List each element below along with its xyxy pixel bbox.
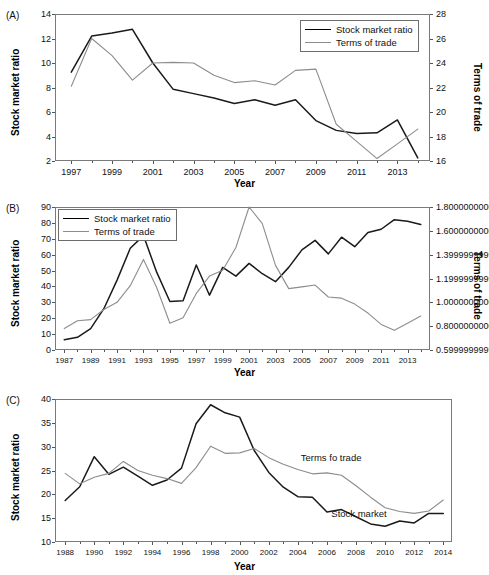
x-axis-tick-mark <box>385 542 386 545</box>
x-axis-tick-mark <box>414 542 415 545</box>
x-axis-minor-tick-mark <box>342 350 343 352</box>
x-axis-minor-tick-mark <box>312 542 313 544</box>
y-axis-tick-label: 70 <box>29 234 51 244</box>
y-axis-tick-label: 50 <box>29 266 51 276</box>
y2-axis-tick-label: 1.60000000000000009 <box>436 226 460 236</box>
x-axis-tick-label: 2001 <box>240 356 258 365</box>
x-axis-minor-tick-mark <box>173 161 174 163</box>
panel-a-x-axis-label: Year <box>0 178 489 189</box>
x-axis-tick-label: 1993 <box>135 356 153 365</box>
x-axis-tick-mark <box>234 161 235 164</box>
x-axis-minor-tick-mark <box>371 542 372 544</box>
x-axis-minor-tick-mark <box>400 542 401 544</box>
y-axis-tick-mark <box>52 399 55 400</box>
x-axis-tick-label: 2005 <box>224 167 244 177</box>
y-axis-tick-mark <box>52 447 55 448</box>
x-axis-minor-tick-mark <box>157 350 158 352</box>
x-axis-minor-tick-mark <box>236 350 237 352</box>
panel-b-y-axis-label: Stock market ratio <box>10 223 22 343</box>
y-axis-tick-mark <box>52 112 55 113</box>
x-axis-tick-label: 2004 <box>289 548 307 557</box>
x-axis-tick-label: 1995 <box>161 356 179 365</box>
x-axis-minor-tick-mark <box>132 161 133 163</box>
legend-entry-stock-market-ratio: Stock market ratio <box>305 23 413 36</box>
y2-axis-tick-mark <box>430 88 433 89</box>
x-axis-minor-tick-mark <box>254 542 255 544</box>
y-axis-tick-mark <box>52 423 55 424</box>
panel-b-legend: Stock market ratio Terms of trade <box>58 209 177 241</box>
x-axis-tick-mark <box>328 350 329 353</box>
x-axis-tick-label: 1994 <box>144 548 162 557</box>
x-axis-minor-tick-mark <box>80 542 81 544</box>
x-axis-tick-label: 1988 <box>56 548 74 557</box>
panel-b-tag: (B) <box>6 203 19 214</box>
y2-axis-tick-mark <box>430 137 433 138</box>
y-axis-tick-label: 20 <box>29 489 51 499</box>
legend-swatch-stock-market-ratio <box>63 218 89 219</box>
x-axis-tick-mark <box>269 542 270 545</box>
panel-a-y2-axis-label: Terms of trade <box>471 42 483 152</box>
y2-axis-tick-mark <box>430 112 433 113</box>
y2-axis-tick-label: 20 <box>436 107 460 117</box>
x-axis-tick-label: 2013 <box>387 167 407 177</box>
y-axis-tick-mark <box>52 350 55 351</box>
x-axis-tick-label: 1991 <box>108 356 126 365</box>
x-axis-tick-label: 2003 <box>267 356 285 365</box>
x-axis-minor-tick-mark <box>167 542 168 544</box>
y2-axis-tick-label: 0.80000000000000004 <box>436 321 460 331</box>
y-axis-tick-label: 4 <box>29 132 51 142</box>
panel-c: (C) Stock market ratio Year Terms fo tra… <box>0 385 489 575</box>
x-axis-minor-tick-mark <box>377 161 378 163</box>
x-axis-minor-tick-mark <box>183 350 184 352</box>
x-axis-tick-label: 1997 <box>187 356 205 365</box>
y2-axis-tick-label: 18 <box>436 132 460 142</box>
x-axis-tick-label: 1992 <box>114 548 132 557</box>
y-axis-tick-label: 8 <box>29 83 51 93</box>
y-axis-tick-label: 6 <box>29 107 51 117</box>
y-axis-tick-mark <box>52 255 55 256</box>
x-axis-minor-tick-mark <box>130 350 131 352</box>
y-axis-tick-mark <box>52 223 55 224</box>
x-axis-tick-mark <box>381 350 382 353</box>
y-axis-tick-label: 14 <box>29 9 51 19</box>
x-axis-tick-label: 1999 <box>102 167 122 177</box>
x-axis-tick-label: 2009 <box>346 356 364 365</box>
x-axis-tick-label: 2006 <box>318 548 336 557</box>
y2-axis-tick-label: 1.39999999999999991 <box>436 250 460 260</box>
y-axis-tick-mark <box>52 318 55 319</box>
y-axis-tick-mark <box>52 286 55 287</box>
y-axis-tick-label: 80 <box>29 218 51 228</box>
y-axis-tick-label: 35 <box>29 418 51 428</box>
x-axis-minor-tick-mark <box>104 350 105 352</box>
y2-axis-tick-label: 0.59999999999999998 <box>436 345 460 355</box>
y-axis-tick-mark <box>52 14 55 15</box>
x-axis-minor-tick-mark <box>315 350 316 352</box>
figure-three-panel-line-charts: (A) Stock market ratio Terms of trade Ye… <box>0 0 489 575</box>
x-axis-tick-mark <box>170 350 171 353</box>
y-axis-tick-label: 20 <box>29 313 51 323</box>
x-axis-minor-tick-mark <box>283 542 284 544</box>
y-axis-tick-mark <box>52 494 55 495</box>
y-axis-tick-mark <box>52 471 55 472</box>
panel-c-tag: (C) <box>6 395 20 406</box>
x-axis-tick-label: 2009 <box>306 167 326 177</box>
panel-b-x-axis-label: Year <box>0 367 489 378</box>
x-axis-tick-label: 2007 <box>265 167 285 177</box>
panel-b: (B) Stock market ratio Terms of trade Ye… <box>0 195 489 385</box>
x-axis-minor-tick-mark <box>429 542 430 544</box>
x-axis-tick-label: 2011 <box>347 167 366 177</box>
x-axis-tick-label: 2005 <box>293 356 311 365</box>
y-axis-tick-label: 0 <box>29 345 51 355</box>
x-axis-tick-label: 1996 <box>173 548 191 557</box>
x-axis-tick-mark <box>355 350 356 353</box>
y-axis-tick-mark <box>52 542 55 543</box>
panel-a: (A) Stock market ratio Terms of trade Ye… <box>0 0 489 195</box>
y2-axis-tick-mark <box>430 279 433 280</box>
x-axis-tick-mark <box>153 161 154 164</box>
x-axis-minor-tick-mark <box>255 161 256 163</box>
x-axis-tick-mark <box>397 161 398 164</box>
x-axis-tick-label: 2002 <box>260 548 278 557</box>
x-axis-tick-mark <box>211 542 212 545</box>
x-axis-tick-mark <box>276 350 277 353</box>
x-axis-tick-mark <box>223 350 224 353</box>
